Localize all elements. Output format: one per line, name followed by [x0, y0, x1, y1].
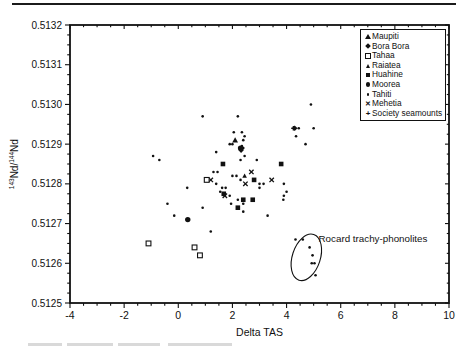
y-tick-label: 0.5125 [31, 298, 62, 309]
y-tick-label: 0.5128 [31, 178, 62, 189]
legend-box: MaupitiBora BoraTahaaRaiateaHuahineMoore… [360, 29, 446, 121]
dot-icon [364, 93, 372, 95]
data-point-dot [243, 135, 246, 138]
data-point-dot [242, 210, 245, 213]
data-point-filled-square [241, 197, 246, 202]
data-point-filled-square [252, 178, 257, 183]
data-point-dot [230, 202, 233, 205]
data-point-filled-circle [185, 217, 190, 222]
data-point-dot [283, 194, 286, 197]
data-point-filled-square [236, 205, 241, 210]
data-point-dot [201, 115, 204, 118]
data-point-dot [241, 131, 244, 134]
y-axis-title-mid: Nd/ [9, 163, 20, 179]
x-tick-label: 2 [230, 309, 236, 321]
y-tick-label: 0.5132 [31, 20, 62, 31]
data-point-dot [308, 246, 311, 249]
x-axis-title: Delta TAS [236, 326, 283, 338]
data-point-dot [221, 187, 224, 190]
data-point-dot [295, 135, 298, 138]
data-point-dot [262, 183, 265, 186]
filled-square-icon [364, 73, 372, 78]
data-point-open-square [204, 177, 209, 182]
data-point-dot [311, 254, 314, 257]
data-point-filled-triangle [232, 137, 238, 142]
caption-remnant [28, 343, 62, 346]
data-point-open-square [146, 241, 151, 246]
data-point-dot [239, 179, 242, 182]
data-point-dot [312, 127, 315, 130]
y-axis-title-sup1: 143 [8, 178, 15, 189]
y-tick-label: 0.5130 [31, 99, 62, 110]
data-point-dot [282, 198, 285, 201]
data-point-dot [304, 143, 307, 146]
x-icon: ✕ [364, 101, 372, 107]
data-point-dot [258, 183, 261, 186]
data-point-dot [219, 191, 222, 194]
data-point-dot [186, 187, 189, 190]
data-point-dot [166, 202, 169, 205]
data-point-dot [158, 159, 161, 162]
data-point-open-square [198, 253, 203, 258]
x-tick-label: -4 [65, 309, 74, 321]
data-point-dot [237, 198, 240, 201]
data-point-filled-square [279, 162, 284, 167]
data-point-dot [224, 187, 227, 190]
legend-item-society-seamounts: +Society seamounts [364, 109, 442, 119]
data-point-small-triangle [242, 174, 247, 178]
data-point-dot [294, 238, 297, 241]
x-tick-label: 0 [175, 309, 181, 321]
x-tick-label: 4 [284, 309, 290, 321]
data-point-open-square [192, 245, 197, 250]
x-tick-label: 10 [443, 309, 455, 321]
y-tick-label: 0.5129 [31, 139, 62, 150]
y-tick-label: 0.5126 [31, 258, 62, 269]
data-point-dot [283, 183, 286, 186]
y-axis-title: 143Nd/144Nd [8, 126, 20, 202]
data-point-filled-square [250, 197, 255, 202]
data-point-dot [215, 183, 218, 186]
data-point-filled-square [221, 191, 226, 196]
data-point-dot [228, 194, 231, 197]
data-point-dot [173, 214, 176, 217]
x-tick-label: 8 [392, 309, 398, 321]
small-triangle-icon [364, 64, 372, 68]
plus-icon: + [364, 110, 372, 117]
data-point-dot [313, 262, 316, 265]
filled-diamond-icon [364, 44, 372, 48]
x-tick-label: -2 [119, 309, 128, 321]
x-tick-label: 6 [338, 309, 344, 321]
legend-item-label: Society seamounts [372, 109, 442, 119]
data-point-dot [201, 206, 204, 209]
data-point-dot [314, 274, 317, 277]
figure-page: -4-202468100.51250.51260.51270.51280.512… [0, 0, 466, 349]
caption-remnant [168, 343, 232, 346]
y-tick-label: 0.5127 [31, 218, 62, 229]
data-point-dot [216, 171, 219, 174]
annotation-label: Rocard trachy-phonolites [319, 233, 428, 244]
data-point-dot [228, 143, 231, 146]
data-point-dot [258, 187, 261, 190]
data-point-dot [242, 139, 245, 142]
data-point-dot [239, 159, 242, 162]
data-point-dot [237, 115, 240, 118]
data-point-dot [231, 175, 234, 178]
y-axis-title-end: Nd [9, 139, 20, 152]
data-point-dot [235, 175, 238, 178]
data-point-dot [212, 171, 215, 174]
data-point-dot [152, 155, 155, 158]
filled-triangle-icon [364, 34, 372, 39]
data-point-dot [242, 202, 245, 205]
y-axis-title-sup2: 144 [8, 152, 15, 163]
data-point-dot [231, 143, 234, 146]
data-point-dot [285, 191, 288, 194]
data-point-dot [297, 127, 300, 130]
data-point-dot [232, 131, 235, 134]
data-point-dot [255, 159, 258, 162]
open-square-icon [364, 53, 372, 59]
data-point-dot [310, 262, 313, 265]
data-point-dot [209, 230, 212, 233]
caption-remnant [118, 343, 160, 346]
data-point-dot [266, 214, 269, 217]
filled-circle-icon [364, 82, 372, 87]
